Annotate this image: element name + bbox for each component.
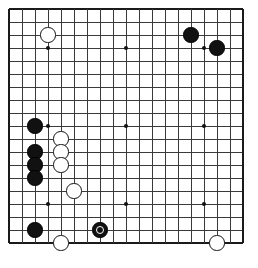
white-stone-left-3[interactable] bbox=[53, 157, 68, 172]
go-board-diagram bbox=[0, 0, 258, 268]
black-stone-lower-left[interactable] bbox=[27, 222, 42, 237]
white-stone-upper-left[interactable] bbox=[40, 27, 55, 42]
black-stone-left-4[interactable] bbox=[27, 170, 42, 185]
black-stone-marked[interactable] bbox=[92, 222, 107, 237]
black-stone-upper-right-2[interactable] bbox=[209, 40, 224, 55]
white-stone-lower-left[interactable] bbox=[53, 235, 68, 250]
white-stone-lower-right[interactable] bbox=[209, 235, 224, 250]
white-stone-left-4[interactable] bbox=[66, 183, 81, 198]
black-stone-left-1[interactable] bbox=[27, 118, 42, 133]
black-stone-upper-right-1[interactable] bbox=[183, 27, 198, 42]
